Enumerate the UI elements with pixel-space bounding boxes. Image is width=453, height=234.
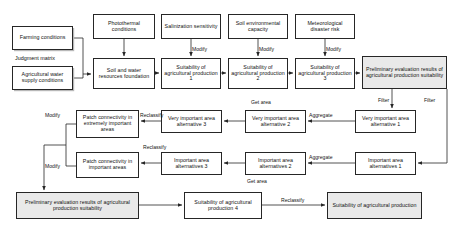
node-important-area-alternatives-2[interactable]: Important area alternatives 2 [245, 152, 306, 175]
node-label: Patch connectivity in extremely importan… [79, 115, 136, 132]
edge-label-get-area-important: Get area [247, 178, 267, 184]
edge-label-aggregate-very-important: Aggregate [309, 112, 333, 118]
edge-label-filter-left: Filter [378, 97, 389, 103]
node-label: Soil environmental capacity [231, 21, 285, 32]
flowchart-canvas: Farming conditions Agricultural water su… [0, 0, 453, 234]
node-label: Very important area alternative 1 [358, 116, 413, 127]
node-label: Important area alternatives 1 [358, 158, 413, 169]
node-suitability-agricultural-production-4[interactable]: Suitability of agricultural production 4 [184, 192, 262, 219]
node-soil-and-water-resources-foundation[interactable]: Soil and water resources foundation [93, 58, 155, 89]
node-label: Soil and water resources foundation [96, 68, 152, 79]
edge-label-modify-extremely: Modify [45, 112, 60, 118]
node-label: Salinization sensitivity [165, 24, 218, 30]
node-label: Agricultural water supply conditions [15, 72, 70, 83]
node-label: Suitability of agricultural production 4 [187, 200, 259, 211]
node-label: Photothermal conditions [96, 21, 152, 32]
node-suitability-agricultural-production-3[interactable]: Suitability of agricultural production 3 [295, 58, 355, 89]
edge-label-get-area-very-important: Get area [251, 99, 271, 105]
node-photothermal-conditions[interactable]: Photothermal conditions [93, 14, 155, 39]
node-patch-connectivity-extremely-important-areas[interactable]: Patch connectivity in extremely importan… [76, 110, 139, 138]
node-label: Suitability of agricultural production [332, 203, 416, 209]
edge-label-reclassify-important: Reclassify [143, 144, 166, 150]
edge-label-judgment-matrix: Judgment matrix [15, 55, 55, 61]
node-suitability-agricultural-production-2[interactable]: Suitability of agricultural production 2 [228, 58, 288, 89]
node-label: Suitability of agricultural production 1 [164, 65, 218, 82]
node-preliminary-evaluation-results-bottom[interactable]: Preliminary evaluation results of agricu… [16, 192, 139, 219]
node-label: Very important area alternative 3 [164, 116, 219, 127]
node-label: Preliminary evaluation results of agricu… [19, 200, 136, 211]
node-important-area-alternatives-1[interactable]: Important area alternatives 1 [355, 152, 416, 175]
node-very-important-area-alternative-1[interactable]: Very important area alternative 1 [355, 110, 416, 133]
edge-label-reclassify-final: Reclassify [281, 197, 304, 203]
node-soil-environmental-capacity[interactable]: Soil environmental capacity [228, 14, 288, 39]
node-label: Suitability of agricultural production 3 [298, 65, 352, 82]
node-preliminary-evaluation-results-top[interactable]: Preliminary evaluation results of agricu… [362, 56, 447, 89]
node-important-area-alternatives-3[interactable]: Important area alternatives 3 [161, 152, 222, 175]
node-label: Patch connectivity in important areas [79, 159, 136, 170]
edge-label-reclassify-extremely: Reclassify [140, 112, 163, 118]
node-salinization-sensitivity[interactable]: Salinization sensitivity [161, 14, 221, 39]
node-very-important-area-alternative-2[interactable]: Very important area alternative 2 [245, 110, 306, 133]
wire-farming-to-bracket [73, 38, 83, 74]
edge-label-filter-right: Filter [424, 97, 435, 103]
node-suitability-of-agricultural-production[interactable]: Suitability of agricultural production [327, 192, 422, 219]
edge-label-modify-meteorological: Modify [326, 46, 341, 52]
node-label: Important area alternatives 2 [248, 158, 303, 169]
wire-patch-modify-bracket [66, 124, 76, 166]
node-label: Suitability of agricultural production 2 [231, 65, 285, 82]
node-label: Very important area alternative 2 [248, 116, 303, 127]
wire-water-to-bracket [73, 74, 83, 78]
node-agricultural-water-supply-conditions[interactable]: Agricultural water supply conditions [12, 66, 73, 90]
node-meteorological-disaster-risk[interactable]: Meteorological disaster risk [295, 14, 355, 39]
edge-label-aggregate-important: Aggregate [309, 154, 333, 160]
node-label: Preliminary evaluation results of agricu… [365, 67, 444, 78]
node-very-important-area-alternative-3[interactable]: Very important area alternative 3 [161, 110, 222, 133]
edge-label-modify-soil-environmental: Modify [259, 46, 274, 52]
node-label: Meteorological disaster risk [298, 21, 352, 32]
node-patch-connectivity-important-areas[interactable]: Patch connectivity in important areas [76, 152, 139, 178]
node-suitability-agricultural-production-1[interactable]: Suitability of agricultural production 1 [161, 58, 221, 89]
node-farming-conditions[interactable]: Farming conditions [12, 26, 73, 50]
edge-label-modify-salinization: Modify [192, 46, 207, 52]
node-label: Important area alternatives 3 [164, 158, 219, 169]
node-label: Farming conditions [20, 35, 66, 41]
edge-label-modify-important: Modify [45, 163, 60, 169]
